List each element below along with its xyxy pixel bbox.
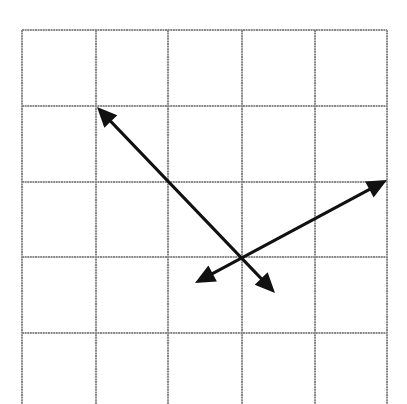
arrow-a [97,107,275,293]
grid [22,30,387,404]
arrow-b [195,180,387,283]
diagram-svg [0,0,407,404]
vector-grid-diagram [0,0,407,404]
arrow-b-shaft [207,187,374,277]
